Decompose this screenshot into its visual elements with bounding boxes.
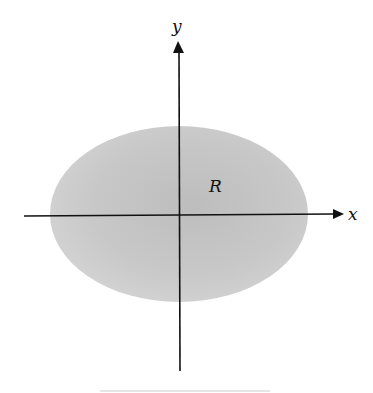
diagram-canvas: x y R <box>0 0 373 393</box>
y-axis-arrow-icon <box>173 41 184 53</box>
region-label: R <box>208 176 222 196</box>
x-axis-arrow-icon <box>333 209 344 219</box>
y-axis <box>179 52 180 371</box>
x-axis-label: x <box>348 204 358 224</box>
y-axis-label: y <box>171 16 182 36</box>
